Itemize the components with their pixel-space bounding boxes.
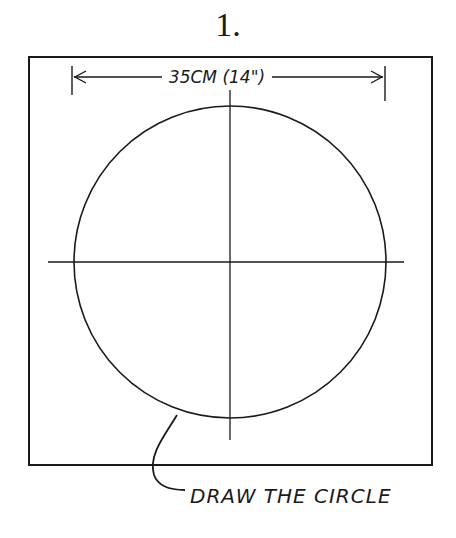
circle-drawing-diagram: 35CM (14") DRAW THE CIRCLE (0, 0, 456, 538)
dimension-label: 35CM (14") (169, 67, 265, 87)
leader-line (153, 415, 185, 490)
caption: DRAW THE CIRCLE (190, 484, 392, 508)
